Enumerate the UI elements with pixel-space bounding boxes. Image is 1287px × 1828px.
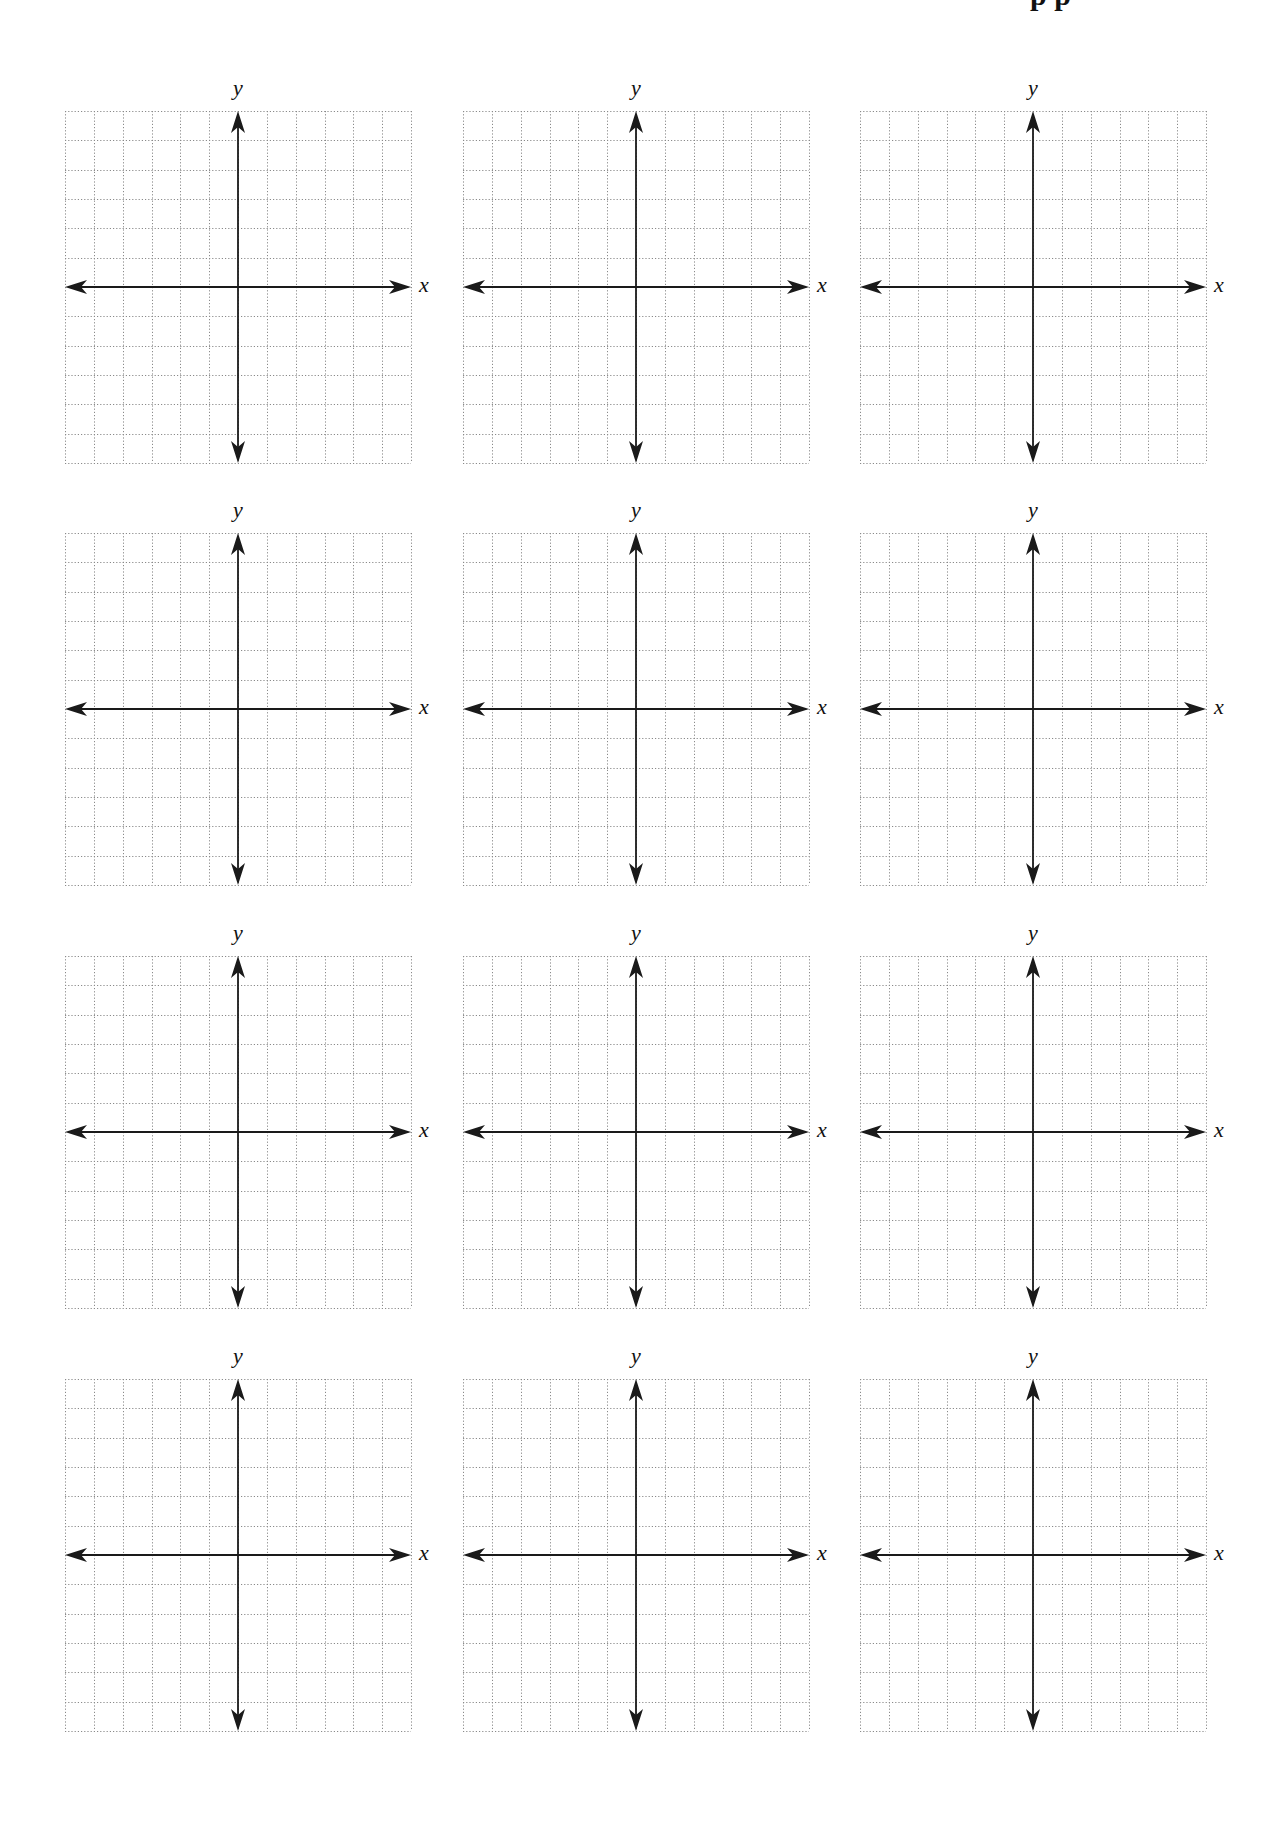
y-axis-label: y — [1028, 1345, 1038, 1367]
coordinate-grid: yx — [65, 111, 411, 463]
y-axis-label: y — [233, 499, 243, 521]
grid-svg — [463, 1379, 809, 1731]
y-axis-label: y — [1028, 922, 1038, 944]
grid-svg — [65, 1379, 411, 1731]
coordinate-grid: yx — [463, 1379, 809, 1731]
x-axis-label: x — [817, 696, 827, 718]
grid-svg — [860, 1379, 1206, 1731]
y-axis-label: y — [233, 77, 243, 99]
grid-svg — [463, 533, 809, 885]
grid-svg — [65, 956, 411, 1308]
x-axis-label: x — [817, 274, 827, 296]
coordinate-grid: yx — [860, 533, 1206, 885]
y-axis-label: y — [631, 1345, 641, 1367]
y-axis-label: y — [631, 77, 641, 99]
coordinate-grid: yx — [860, 1379, 1206, 1731]
y-axis-label: y — [233, 922, 243, 944]
coordinate-grid: yx — [463, 956, 809, 1308]
grid-svg — [860, 533, 1206, 885]
y-axis-label: y — [233, 1345, 243, 1367]
y-axis-label: y — [631, 499, 641, 521]
x-axis-label: x — [1214, 274, 1224, 296]
grid-svg — [860, 111, 1206, 463]
y-axis-label: y — [1028, 499, 1038, 521]
x-axis-label: x — [419, 696, 429, 718]
y-axis-label: y — [631, 922, 641, 944]
y-axis-label: y — [1028, 77, 1038, 99]
coordinate-grid: yx — [860, 111, 1206, 463]
coordinate-grid: yx — [65, 533, 411, 885]
coordinate-grid: yx — [463, 533, 809, 885]
x-axis-label: x — [419, 274, 429, 296]
x-axis-label: x — [1214, 1542, 1224, 1564]
grid-svg — [463, 956, 809, 1308]
x-axis-label: x — [419, 1119, 429, 1141]
x-axis-label: x — [1214, 1119, 1224, 1141]
grid-svg — [65, 111, 411, 463]
coordinate-grid: yx — [65, 956, 411, 1308]
coordinate-grid: yx — [65, 1379, 411, 1731]
coordinate-grid: yx — [860, 956, 1206, 1308]
x-axis-label: x — [817, 1119, 827, 1141]
x-axis-label: x — [817, 1542, 827, 1564]
grid-svg — [463, 111, 809, 463]
x-axis-label: x — [1214, 696, 1224, 718]
grid-svg — [65, 533, 411, 885]
coordinate-grid: yx — [463, 111, 809, 463]
grid-svg — [860, 956, 1206, 1308]
x-axis-label: x — [419, 1542, 429, 1564]
page-title-fragment: p p — [1030, 0, 1071, 12]
